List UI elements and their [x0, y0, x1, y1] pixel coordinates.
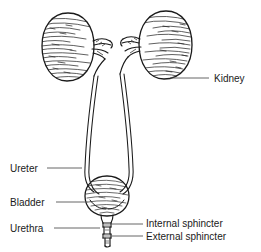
urinary-system-diagram: Kidney Ureter Bladder Urethra Internal s…	[0, 0, 261, 252]
label-urethra: Urethra	[10, 223, 44, 234]
label-kidney: Kidney	[214, 73, 245, 84]
label-external-sphincter: External sphincter	[146, 231, 227, 242]
label-ureter: Ureter	[10, 163, 38, 174]
label-internal-sphincter: Internal sphincter	[146, 218, 223, 229]
urinary-system-figure: Kidney Ureter Bladder Urethra Internal s…	[0, 0, 261, 252]
label-bladder: Bladder	[10, 197, 45, 208]
